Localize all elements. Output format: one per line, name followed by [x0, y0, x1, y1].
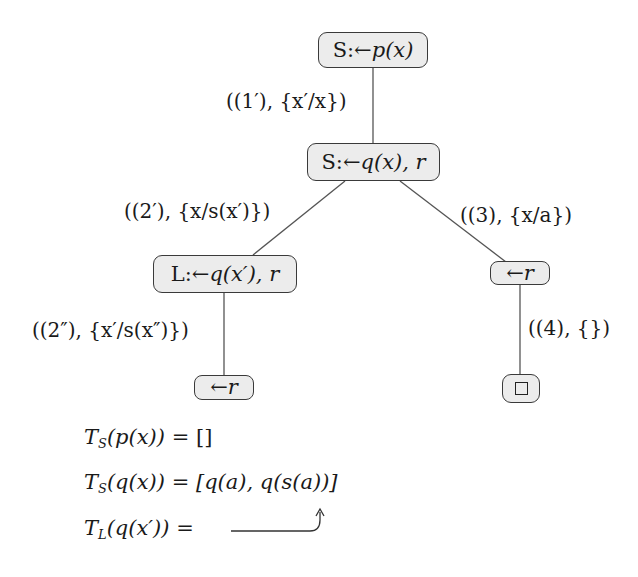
node-empty-clause	[502, 374, 540, 403]
node-goal: r	[524, 263, 534, 284]
node-goal: q(x′), r	[209, 264, 279, 285]
node-goal: p(x)	[372, 40, 414, 61]
table-ts-q: TS(q(x)) = [q(a), q(s(a))]	[84, 472, 338, 495]
table-tl-q: TL(q(x′)) =	[84, 518, 194, 541]
node-root-p: S:← p(x)	[318, 32, 428, 68]
node-goal: q(x), r	[361, 152, 426, 173]
edge-label-1prime: ((1′), {x′/x})	[226, 91, 346, 111]
node-q-r: S:← q(x), r	[307, 143, 440, 181]
edge-label-3: ((3), {x/a})	[460, 205, 572, 225]
node-text: L:←	[171, 264, 210, 285]
derivation-tree-diagram: S:← p(x) S:← q(x), r L:← q(x′), r ← r ← …	[0, 0, 638, 577]
node-r-left: ← r	[194, 375, 254, 400]
curved-arrow-icon	[231, 512, 320, 531]
node-r-right: ← r	[490, 261, 550, 285]
edge-label-4: ((4), {})	[528, 318, 610, 338]
node-text: S:←	[333, 40, 372, 61]
empty-clause-box-icon	[515, 382, 528, 395]
node-text: ←	[210, 377, 228, 398]
edge-label-2doubleprime: ((2″), {x′/s(x″)})	[32, 320, 189, 340]
node-text: S:←	[321, 152, 360, 173]
table-ts-p: TS(p(x)) = []	[84, 427, 212, 450]
node-goal: r	[228, 377, 238, 398]
node-leader-q-r: L:← q(x′), r	[153, 255, 297, 293]
edge-label-2prime: ((2′), {x/s(x′)})	[124, 201, 270, 221]
node-text: ←	[506, 263, 524, 284]
